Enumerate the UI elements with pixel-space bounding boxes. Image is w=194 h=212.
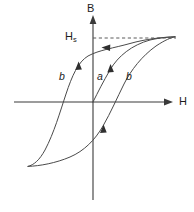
branch-label-b-right: b bbox=[126, 71, 132, 82]
h-axis-arrowhead-icon bbox=[164, 99, 173, 106]
saturation-label-base: H bbox=[65, 30, 73, 42]
branch-label-b-left: b bbox=[59, 71, 65, 82]
hysteresis-loop-figure: B H Hs b a b bbox=[0, 0, 194, 212]
saturation-label-subscript: s bbox=[73, 35, 77, 44]
initial-curve-label-a: a bbox=[97, 71, 103, 82]
saturation-field-label: Hs bbox=[65, 31, 77, 44]
h-axis-label: H bbox=[179, 96, 187, 107]
b-axis bbox=[90, 15, 97, 200]
b-axis-arrowhead-icon bbox=[90, 15, 97, 24]
hysteresis-plot-svg bbox=[0, 0, 194, 212]
b-axis-label: B bbox=[87, 3, 94, 14]
